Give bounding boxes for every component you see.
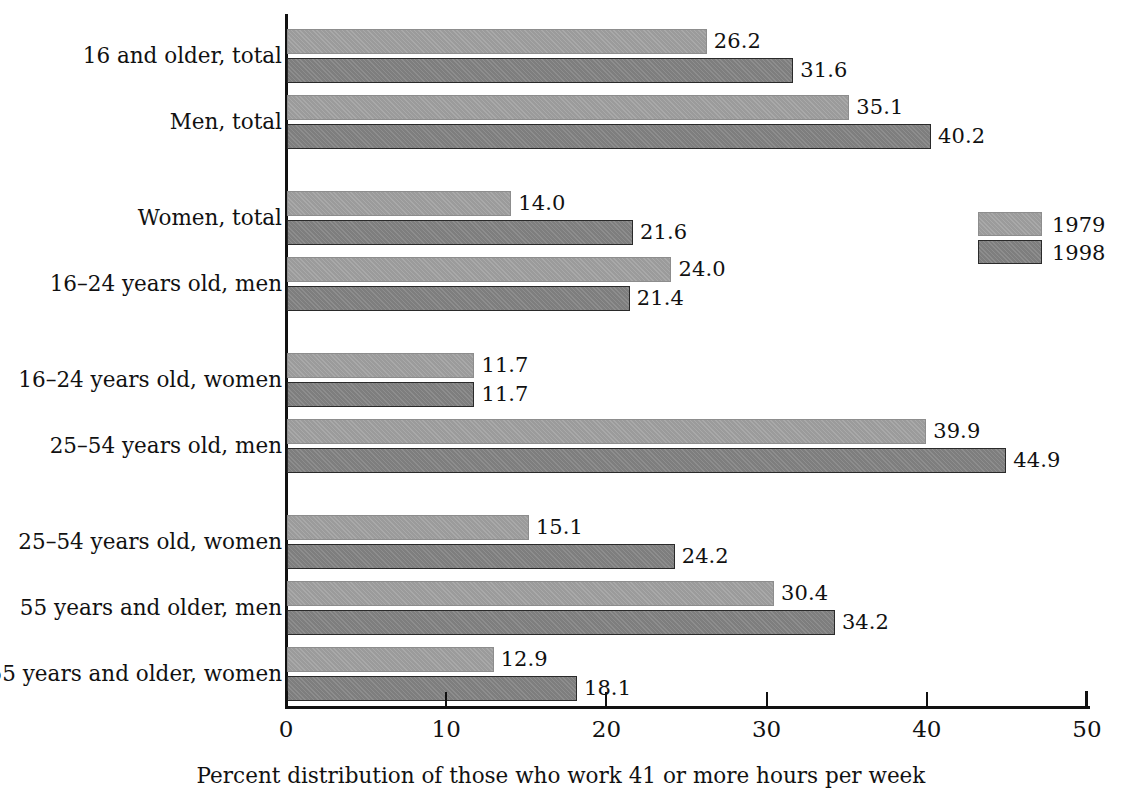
bar-value-label: 31.6 <box>800 60 847 81</box>
x-tick <box>926 692 928 707</box>
plot-area: 26.231.635.140.214.021.624.021.411.711.7… <box>287 14 1088 706</box>
bar-value-label: 11.7 <box>481 355 528 376</box>
x-tick <box>605 692 607 707</box>
bar-value-label: 21.6 <box>640 222 687 243</box>
bar-1998-8 <box>287 676 577 701</box>
bar-value-label: 30.4 <box>781 583 828 604</box>
category-label: Women, total <box>0 207 282 229</box>
bar-1998-1 <box>287 124 931 149</box>
legend-swatch-1979 <box>978 212 1042 236</box>
x-tick-label: 40 <box>912 718 941 741</box>
bar-value-label: 44.9 <box>1013 450 1060 471</box>
legend: 1979 1998 <box>978 212 1118 268</box>
x-tick-label: 30 <box>752 718 781 741</box>
category-label: 25–54 years old, women <box>0 531 282 553</box>
category-label: Men, total <box>0 111 282 133</box>
x-tick <box>445 692 447 707</box>
bar-value-label: 26.2 <box>714 31 761 52</box>
bar-value-label: 14.0 <box>518 193 565 214</box>
x-tick-label: 0 <box>279 718 294 741</box>
bar-1998-6 <box>287 544 675 569</box>
bar-value-label: 40.2 <box>938 126 985 147</box>
bar-value-label: 21.4 <box>637 288 684 309</box>
bar-value-label: 39.9 <box>933 421 980 442</box>
bar-1998-4 <box>287 382 474 407</box>
x-tick-label: 10 <box>432 718 461 741</box>
bar-1979-1 <box>287 95 849 120</box>
bar-chart: 26.231.635.140.214.021.624.021.411.711.7… <box>0 0 1122 807</box>
bar-value-label: 18.1 <box>584 678 631 699</box>
bar-1998-3 <box>287 286 630 311</box>
legend-item-1979: 1979 <box>978 212 1118 237</box>
bar-1979-6 <box>287 515 529 540</box>
category-label: 55 years and older, men <box>0 597 282 619</box>
bar-value-label: 35.1 <box>856 97 903 118</box>
category-label: 16–24 years old, women <box>0 369 282 391</box>
category-label: 25–54 years old, men <box>0 435 282 457</box>
legend-item-1998: 1998 <box>978 240 1118 265</box>
category-label: 16 and older, total <box>0 45 282 67</box>
bar-value-label: 34.2 <box>842 612 889 633</box>
bar-value-label: 12.9 <box>501 649 548 670</box>
legend-label-1979: 1979 <box>1052 214 1105 235</box>
x-tick-label: 50 <box>1072 718 1101 741</box>
category-label: 16–24 years old, men <box>0 273 282 295</box>
x-tick <box>285 691 288 707</box>
bar-1979-8 <box>287 647 494 672</box>
legend-swatch-1998 <box>978 240 1042 264</box>
category-label: 55 years and older, women <box>0 663 282 685</box>
bar-1998-5 <box>287 448 1006 473</box>
x-axis-title: Percent distribution of those who work 4… <box>0 765 1122 787</box>
bar-1979-2 <box>287 191 511 216</box>
x-axis-line <box>285 706 1090 709</box>
bar-1979-0 <box>287 29 707 54</box>
bar-value-label: 24.2 <box>682 546 729 567</box>
bar-1979-7 <box>287 581 774 606</box>
bar-1998-7 <box>287 610 835 635</box>
x-tick-label: 20 <box>592 718 621 741</box>
x-tick <box>1085 691 1088 707</box>
bar-1979-4 <box>287 353 474 378</box>
bar-1979-5 <box>287 419 926 444</box>
bar-value-label: 24.0 <box>678 259 725 280</box>
x-tick <box>766 692 768 707</box>
bar-value-label: 15.1 <box>536 517 583 538</box>
bar-1998-0 <box>287 58 793 83</box>
legend-label-1998: 1998 <box>1052 242 1105 263</box>
bar-value-label: 11.7 <box>481 384 528 405</box>
bar-1998-2 <box>287 220 633 245</box>
bar-1979-3 <box>287 257 671 282</box>
